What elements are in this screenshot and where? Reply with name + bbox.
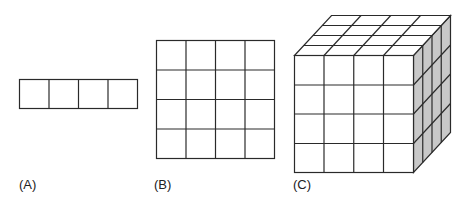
figure-c-cube bbox=[295, 16, 451, 173]
figure-canvas bbox=[0, 0, 471, 201]
figure-a-label: (A) bbox=[19, 177, 36, 192]
figure-a-row bbox=[20, 80, 138, 109]
figure-b-grid bbox=[157, 41, 275, 159]
figure-b-label: (B) bbox=[154, 177, 171, 192]
figure-c-label: (C) bbox=[293, 177, 311, 192]
